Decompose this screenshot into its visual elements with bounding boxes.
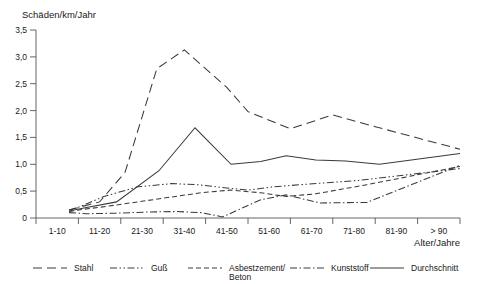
legend-label: Durchschnitt (411, 263, 459, 273)
x-tick-label: 31-40 (174, 226, 196, 236)
legend-label: Guß (151, 263, 168, 273)
x-tick-label: 21-30 (131, 226, 153, 236)
y-axis-title: Schäden/km/Jahr (22, 9, 96, 20)
x-axis-tick-labels: 1-10 11-20 21-30 31-40 41-50 51-60 61-70… (49, 226, 448, 236)
legend-label: Stahl (74, 263, 93, 273)
x-tick-label: 61-70 (301, 226, 323, 236)
y-axis-ticks (30, 30, 36, 218)
line-chart: Schäden/km/Jahr 0 0,5 1,0 1,5 2,0 2,5 3,… (0, 0, 489, 284)
y-tick-label: 1,5 (15, 132, 27, 142)
x-tick-label: 51-60 (258, 226, 280, 236)
y-tick-label: 3,5 (15, 25, 27, 35)
x-axis-ticks (36, 218, 460, 224)
y-tick-label: 3,0 (15, 52, 27, 62)
y-tick-label: 0,5 (15, 186, 27, 196)
y-axis-tick-labels: 0 0,5 1,0 1,5 2,0 2,5 3,0 3,5 (15, 25, 27, 223)
series-lines (69, 50, 460, 217)
x-tick-label: 81-90 (386, 226, 408, 236)
y-tick-label: 2,5 (15, 79, 27, 89)
x-tick-label: 11-20 (89, 226, 110, 236)
series-line-kunststoff (69, 165, 460, 217)
legend-label-line2: Beton (229, 272, 251, 282)
x-tick-label: 1-10 (49, 226, 66, 236)
x-tick-label: 41-50 (216, 226, 238, 236)
y-tick-label: 1,0 (15, 159, 27, 169)
y-tick-label: 2,0 (15, 106, 27, 116)
chart-container: Schäden/km/Jahr 0 0,5 1,0 1,5 2,0 2,5 3,… (0, 0, 489, 284)
x-axis-title: Alter/Jahre (414, 237, 460, 248)
chart-legend: StahlGußAsbestzement/BetonKunststoffDurc… (33, 263, 459, 282)
x-tick-label: > 90 (430, 226, 447, 236)
legend-label: Kunststoff (331, 263, 369, 273)
x-tick-label: 71-80 (343, 226, 365, 236)
series-line-stahl (69, 50, 460, 210)
y-tick-label: 0 (22, 213, 27, 223)
